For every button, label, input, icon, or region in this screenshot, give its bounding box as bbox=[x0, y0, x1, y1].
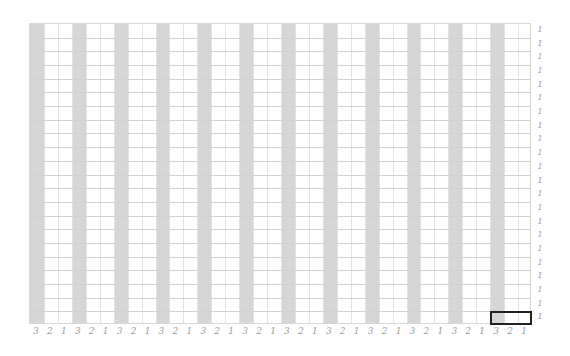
row-label: 1 bbox=[535, 174, 545, 188]
grid-hline bbox=[30, 51, 530, 52]
column-label: 1 bbox=[141, 324, 155, 338]
pattern-grid[interactable] bbox=[29, 23, 531, 324]
row-label: 1 bbox=[535, 215, 545, 229]
grid-hline bbox=[30, 284, 530, 285]
shaded-column bbox=[114, 24, 128, 323]
column-label: 2 bbox=[503, 324, 517, 338]
grid-vline bbox=[351, 24, 352, 323]
column-label: 2 bbox=[336, 324, 350, 338]
row-label: 1 bbox=[535, 201, 545, 215]
grid-vline bbox=[183, 24, 184, 323]
column-label: 1 bbox=[308, 324, 322, 338]
grid-vline bbox=[100, 24, 101, 323]
grid-vline bbox=[156, 24, 157, 323]
shaded-column bbox=[323, 24, 337, 323]
grid-vline bbox=[504, 24, 505, 323]
column-label: 3 bbox=[238, 324, 252, 338]
column-label: 1 bbox=[57, 324, 71, 338]
row-label: 1 bbox=[535, 64, 545, 78]
grid-hline bbox=[30, 133, 530, 134]
grid-vline bbox=[239, 24, 240, 323]
grid-vline bbox=[462, 24, 463, 323]
column-label: 1 bbox=[350, 324, 364, 338]
grid-vline bbox=[128, 24, 129, 323]
grid-vline bbox=[518, 24, 519, 323]
column-label: 1 bbox=[517, 324, 531, 338]
row-label: 1 bbox=[535, 146, 545, 160]
row-label: 1 bbox=[535, 91, 545, 105]
grid-vline bbox=[197, 24, 198, 323]
grid-vline bbox=[142, 24, 143, 323]
grid-vline bbox=[393, 24, 394, 323]
shaded-column bbox=[365, 24, 379, 323]
column-label: 3 bbox=[71, 324, 85, 338]
selection-box[interactable] bbox=[490, 311, 532, 325]
column-label: 2 bbox=[294, 324, 308, 338]
row-label: 1 bbox=[535, 23, 545, 37]
grid-hline bbox=[30, 229, 530, 230]
grid-vline bbox=[434, 24, 435, 323]
grid-hline bbox=[30, 147, 530, 148]
grid-vline bbox=[114, 24, 115, 323]
grid-hline bbox=[30, 38, 530, 39]
grid-vline bbox=[86, 24, 87, 323]
row-label: 1 bbox=[535, 228, 545, 242]
row-label: 1 bbox=[535, 132, 545, 146]
grid-hline bbox=[30, 270, 530, 271]
grid-hline bbox=[30, 216, 530, 217]
grid-vline bbox=[267, 24, 268, 323]
shaded-column bbox=[72, 24, 86, 323]
grid-vline bbox=[420, 24, 421, 323]
grid-vline bbox=[72, 24, 73, 323]
grid-vline bbox=[309, 24, 310, 323]
grid-hline bbox=[30, 298, 530, 299]
grid-vline bbox=[490, 24, 491, 323]
column-label: 1 bbox=[392, 324, 406, 338]
row-label: 1 bbox=[535, 37, 545, 51]
grid-hline bbox=[30, 202, 530, 203]
grid-hline bbox=[30, 161, 530, 162]
column-label: 2 bbox=[127, 324, 141, 338]
column-label: 3 bbox=[196, 324, 210, 338]
column-label: 3 bbox=[447, 324, 461, 338]
grid-vline bbox=[365, 24, 366, 323]
row-label: 1 bbox=[535, 242, 545, 256]
shaded-column bbox=[239, 24, 253, 323]
grid-vline bbox=[476, 24, 477, 323]
column-label: 2 bbox=[461, 324, 475, 338]
grid-vline bbox=[253, 24, 254, 323]
row-label: 1 bbox=[535, 78, 545, 92]
grid-hline bbox=[30, 65, 530, 66]
grid-vline bbox=[169, 24, 170, 323]
grid-vline bbox=[323, 24, 324, 323]
row-label: 1 bbox=[535, 283, 545, 297]
column-label: 3 bbox=[155, 324, 169, 338]
grid-vline bbox=[448, 24, 449, 323]
column-label: 3 bbox=[322, 324, 336, 338]
shaded-column bbox=[30, 24, 44, 323]
grid-vline bbox=[211, 24, 212, 323]
grid-vline bbox=[295, 24, 296, 323]
column-label: 3 bbox=[29, 324, 43, 338]
grid-hline bbox=[30, 120, 530, 121]
grid-hline bbox=[30, 257, 530, 258]
grid-vline bbox=[379, 24, 380, 323]
shaded-column bbox=[156, 24, 170, 323]
grid-vline bbox=[337, 24, 338, 323]
column-label: 1 bbox=[224, 324, 238, 338]
column-label: 2 bbox=[85, 324, 99, 338]
grid-vline bbox=[281, 24, 282, 323]
shaded-column bbox=[281, 24, 295, 323]
row-label: 1 bbox=[535, 269, 545, 283]
row-label: 1 bbox=[535, 256, 545, 270]
column-label: 3 bbox=[113, 324, 127, 338]
grid-vline bbox=[44, 24, 45, 323]
column-label: 3 bbox=[280, 324, 294, 338]
grid-hline bbox=[30, 243, 530, 244]
grid-vline bbox=[407, 24, 408, 323]
shaded-column bbox=[197, 24, 211, 323]
column-label: 2 bbox=[43, 324, 57, 338]
row-label: 1 bbox=[535, 297, 545, 311]
column-label: 1 bbox=[433, 324, 447, 338]
row-label: 1 bbox=[535, 160, 545, 174]
